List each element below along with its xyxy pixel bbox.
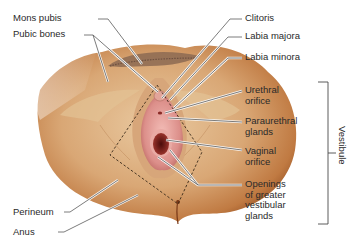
label-vestibule: Vestibule [337,126,348,165]
vestibule-bracket [318,82,328,224]
anatomy-figure: Mons pubis Pubic bones Perineum Anus Cli… [0,0,362,250]
label-labia-majora: Labia majora [245,31,300,42]
label-paraurethral-glands: Paraurethral glands [245,116,297,137]
label-anus: Anus [13,227,35,238]
label-urethral-orifice: Urethral orifice [245,85,279,106]
label-labia-minora: Labia minora [245,52,300,63]
label-perineum: Perineum [13,207,54,218]
label-pubic-bones: Pubic bones [13,29,65,40]
label-vaginal-orifice: Vaginal orifice [245,146,276,167]
label-greater-vestibular-glands: Openings of greater vestibular glands [245,179,286,221]
label-clitoris: Clitoris [245,13,274,24]
urethral-orifice-shape [158,111,162,114]
label-mons-pubis: Mons pubis [13,13,62,24]
